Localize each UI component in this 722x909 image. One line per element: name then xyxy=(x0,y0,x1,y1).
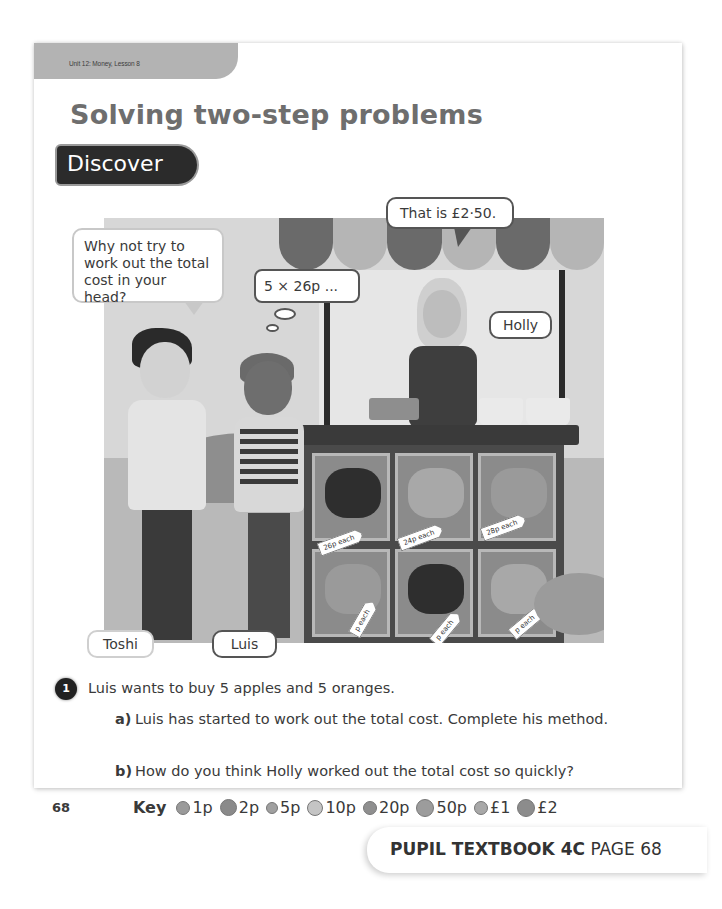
speech-text-holly: That is £2·50. xyxy=(400,205,496,221)
textbook-page: Unit 12: Money, Lesson 8 Solving two-ste… xyxy=(34,43,682,788)
key-label: Key xyxy=(133,798,166,817)
thought-dot-small xyxy=(266,324,279,332)
page-number: 68 xyxy=(52,800,70,815)
luis-figure xyxy=(234,353,314,643)
toshi-figure xyxy=(124,328,214,643)
thought-dot-large xyxy=(274,308,296,320)
question-part-a: a) Luis has started to work out the tota… xyxy=(115,710,635,729)
apple-basket-2 xyxy=(526,398,570,426)
coin-2pound-icon xyxy=(517,799,535,817)
coin-key-5p: 5p xyxy=(266,798,300,817)
coin-key-1p: 1p xyxy=(176,798,212,817)
part-b-letter: b) xyxy=(115,762,132,781)
coin-1pound-icon xyxy=(474,801,488,815)
coin-key-10p: 10p xyxy=(307,798,356,817)
part-b-text: How do you think Holly worked out the to… xyxy=(115,762,655,781)
book-title: PUPIL TEXTBOOK 4C xyxy=(390,839,585,859)
page-title: Solving two-step problems xyxy=(70,99,483,130)
crate-pineapples xyxy=(395,549,473,637)
coin-key-1pound: £1 xyxy=(474,798,510,817)
coin-key-50p: 50p xyxy=(416,798,467,817)
discover-badge: Discover xyxy=(57,146,197,184)
name-label-toshi: Toshi xyxy=(87,630,154,658)
name-label-holly: Holly xyxy=(489,311,552,339)
question-part-b: b) How do you think Holly worked out the… xyxy=(115,762,655,781)
book-page: PAGE 68 xyxy=(590,839,661,859)
thought-bubble-luis: 5 × 26p ... xyxy=(254,269,360,303)
crate-plums xyxy=(312,453,390,541)
crate-bananas xyxy=(312,549,390,637)
coin-20p-icon xyxy=(363,801,377,815)
coin-5p-icon xyxy=(266,802,278,814)
question-number-badge: 1 xyxy=(55,678,77,700)
coin-10p-icon xyxy=(307,800,323,816)
textbook-reference-tab: PUPIL TEXTBOOK 4C PAGE 68 xyxy=(367,827,707,873)
discover-label: Discover xyxy=(67,151,163,176)
textbook-reference: PUPIL TEXTBOOK 4C PAGE 68 xyxy=(390,839,662,859)
apple-basket-1 xyxy=(479,398,523,426)
unit-tab: Unit 12: Money, Lesson 8 xyxy=(34,43,238,79)
coin-2p-icon xyxy=(220,799,237,816)
speech-tail-toshi xyxy=(184,301,204,315)
speech-tail-holly xyxy=(454,227,472,247)
speech-text-toshi: Why not try to work out the total cost i… xyxy=(84,238,209,305)
thought-text-luis: 5 × 26p ... xyxy=(264,278,338,294)
question-intro: Luis wants to buy 5 apples and 5 oranges… xyxy=(88,680,395,696)
speech-bubble-holly: That is £2·50. xyxy=(386,197,514,229)
speech-bubble-toshi: Why not try to work out the total cost i… xyxy=(72,228,224,303)
part-a-letter: a) xyxy=(115,710,131,729)
coin-1p-icon xyxy=(176,801,190,815)
holly-figure xyxy=(409,278,479,428)
coin-50p-icon xyxy=(416,799,434,817)
coin-key-2pound: £2 xyxy=(517,798,557,817)
coin-key-2p: 2p xyxy=(220,798,259,817)
coin-key: Key 1p 2p 5p 10p 20p 50p £1 £2 xyxy=(133,798,558,817)
stall-counter xyxy=(289,425,579,445)
name-label-luis: Luis xyxy=(212,630,277,658)
cash-register xyxy=(369,398,419,420)
part-a-text: Luis has started to work out the total c… xyxy=(115,710,635,729)
coin-key-20p: 20p xyxy=(363,798,410,817)
unit-label: Unit 12: Money, Lesson 8 xyxy=(69,60,140,67)
